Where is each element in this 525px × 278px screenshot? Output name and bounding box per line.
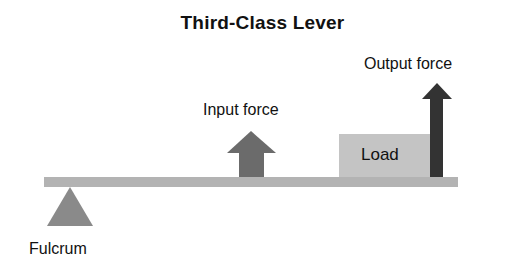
fulcrum-triangle — [47, 187, 93, 226]
load-label: Load — [361, 145, 399, 165]
input-force-label: Input force — [203, 101, 279, 119]
lever-bar — [44, 177, 458, 187]
input-force-arrow-icon — [227, 131, 276, 177]
fulcrum-label: Fulcrum — [29, 240, 87, 258]
output-force-label: Output force — [364, 55, 452, 73]
lever-diagram — [0, 0, 525, 278]
